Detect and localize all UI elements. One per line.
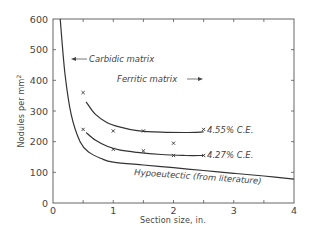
- series-label-4-27: 4.27% C.E.: [207, 150, 253, 160]
- arrowhead-left-icon: [71, 57, 76, 61]
- x-marker-icon: [82, 128, 85, 131]
- y-tick-labels: 0100200300400500600: [30, 14, 48, 209]
- x-marker-icon: [142, 149, 145, 152]
- carbidic-annotation: Carbidic matrix: [71, 54, 155, 64]
- ferritic-matrix-label: Ferritic matrix: [117, 74, 178, 84]
- series-curve-0: [86, 102, 204, 133]
- x-marker-icon: [112, 129, 115, 132]
- y-tick-label: 300: [30, 106, 48, 117]
- x-tick-label: 3: [231, 205, 237, 216]
- x-tick-label: 2: [170, 205, 176, 216]
- x-tick-label: 4: [291, 205, 297, 216]
- x-axis-title: Section size, in.: [140, 216, 206, 225]
- x-marker-icon: [172, 142, 175, 145]
- carbidic-matrix-label: Carbidic matrix: [89, 54, 155, 64]
- y-tick-label: 500: [30, 44, 48, 55]
- y-axis-title: Nodules per mm2: [15, 74, 26, 147]
- chart: 0100200300400500600 01234 Carbidic matri…: [0, 0, 314, 243]
- arrowhead-right-icon: [198, 77, 203, 81]
- y-axis-title-text: Nodules per mm2: [15, 74, 26, 147]
- x-tick-label: 1: [110, 205, 116, 216]
- y-tick-label: 100: [30, 167, 48, 178]
- y-tick-label: 0: [42, 198, 48, 209]
- x-tick-labels: 01234: [50, 205, 297, 216]
- y-tick-label: 200: [30, 136, 48, 147]
- x-marker-icon: [202, 128, 205, 131]
- y-axis-title-main: Nodules per mm: [17, 78, 26, 147]
- y-tick-label: 600: [30, 14, 48, 25]
- y-tick-label: 400: [30, 75, 48, 86]
- y-axis-title-sup: 2: [15, 74, 22, 78]
- series-label-4-55: 4.55% C.E.: [207, 125, 253, 135]
- ferritic-annotation: Ferritic matrix: [117, 74, 203, 84]
- data-markers: [82, 91, 206, 157]
- x-marker-icon: [82, 91, 85, 94]
- curves: [60, 19, 294, 179]
- x-tick-label: 0: [50, 205, 56, 216]
